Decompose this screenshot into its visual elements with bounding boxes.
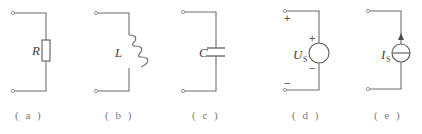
- source-plus-sign: +: [309, 32, 315, 44]
- current-source-subscript: S: [386, 55, 390, 64]
- current-source-icon: [392, 33, 410, 62]
- inductor-icon: [129, 35, 148, 67]
- terminal-bottom: [94, 89, 97, 92]
- resistor-circuit: R ( a ): [11, 11, 50, 122]
- circuit-diagram: R ( a ) L ( b ) C ( c ) + − + − U: [0, 0, 422, 134]
- resistor-icon: [42, 40, 50, 61]
- arrow-up-icon: [398, 33, 404, 40]
- terminal-bottom: [181, 89, 184, 92]
- terminal-top: [366, 9, 369, 12]
- voltage-source-circuit: + − + − U S ( d ): [283, 9, 329, 122]
- caption-c: ( c ): [192, 109, 220, 122]
- caption-a: ( a ): [15, 109, 43, 122]
- inductor-label: L: [114, 45, 122, 60]
- caption-e: ( e ): [374, 109, 402, 122]
- caption-b: ( b ): [105, 109, 133, 122]
- capacitor-icon: [207, 48, 225, 56]
- terminal-top: [94, 11, 97, 14]
- terminal-bottom: [11, 89, 14, 92]
- resistor-label: R: [31, 43, 40, 58]
- current-source-circuit: I S ( e ): [366, 9, 410, 122]
- source-minus-sign: −: [309, 62, 315, 74]
- capacitor-label: C: [199, 45, 208, 60]
- voltage-source-subscript: S: [303, 55, 307, 64]
- terminal-plus-sign: +: [284, 12, 290, 24]
- inductor-circuit: L ( b ): [94, 11, 147, 122]
- capacitor-circuit: C ( c ): [181, 10, 225, 122]
- voltage-source-icon: [309, 43, 329, 63]
- terminal-bottom: [366, 87, 369, 90]
- terminal-top: [181, 10, 184, 13]
- terminal-minus-sign: −: [284, 77, 290, 89]
- caption-d: ( d ): [292, 109, 320, 122]
- terminal-top: [11, 11, 14, 14]
